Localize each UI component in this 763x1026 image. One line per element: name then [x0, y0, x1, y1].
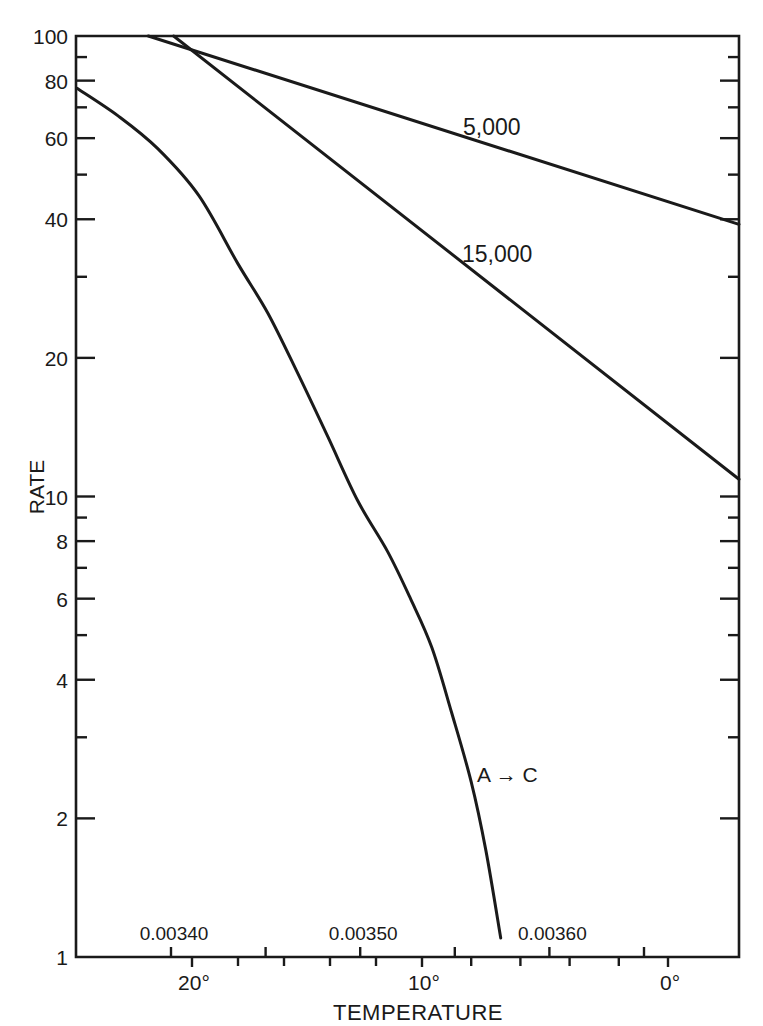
y-tick-label: 2	[56, 807, 68, 830]
x-reciprocal-label: 0.00360	[518, 923, 587, 944]
x-axis-title: TEMPERATURE	[333, 1000, 503, 1025]
y-tick-label: 8	[56, 530, 68, 553]
series-label-a-to-c: A → C	[477, 763, 538, 786]
y-tick-label: 100	[33, 25, 68, 48]
series-label-15000: 15,000	[462, 241, 532, 267]
series-line-15000	[174, 36, 739, 479]
y-axis-ticks: 100806040201086421	[33, 25, 739, 969]
series-line-ac	[77, 88, 501, 938]
x-reciprocal-label: 0.00350	[329, 923, 398, 944]
plot-frame	[76, 36, 739, 957]
y-axis-title: RATE	[25, 460, 48, 514]
x-temperature-label: 10°	[408, 971, 440, 994]
series-label-5000: 5,000	[463, 114, 521, 140]
plot-border	[76, 36, 739, 957]
series-line-5000	[148, 36, 739, 224]
y-tick-label: 60	[45, 127, 68, 150]
y-tick-label: 1	[56, 946, 68, 969]
y-tick-label: 4	[56, 669, 68, 692]
arrhenius-rate-chart: 100806040201086421 0.003400.003500.00360…	[0, 0, 763, 1026]
x-temperature-label: 0°	[660, 971, 680, 994]
x-axis-ticks: 0.003400.003500.0036020°10°0°	[140, 923, 680, 994]
x-reciprocal-label: 0.00340	[140, 923, 209, 944]
y-tick-label: 10	[45, 486, 68, 509]
y-tick-label: 80	[45, 70, 68, 93]
series-lines	[77, 36, 739, 938]
y-tick-label: 6	[56, 588, 68, 611]
x-temperature-label: 20°	[178, 971, 210, 994]
y-tick-label: 40	[45, 208, 68, 231]
y-tick-label: 20	[45, 347, 68, 370]
